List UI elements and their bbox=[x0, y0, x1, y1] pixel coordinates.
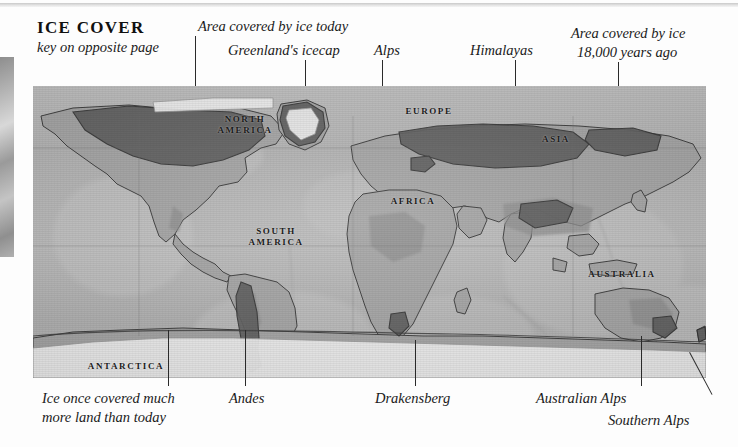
leader-line-andes bbox=[245, 330, 246, 386]
map-label-north-america: NORTH AMERICA bbox=[205, 114, 285, 136]
callout-andes: Andes bbox=[229, 390, 264, 407]
leader-line-area-today bbox=[195, 36, 196, 88]
figure-title-block: ICE COVER key on opposite page bbox=[37, 18, 159, 56]
map-label-south-america: SOUTH AMERICA bbox=[236, 226, 316, 248]
callout-greenlands-icecap: Greenland's icecap bbox=[228, 42, 340, 59]
page-subtitle: key on opposite page bbox=[37, 39, 159, 56]
map-label-africa: AFRICA bbox=[381, 196, 445, 207]
world-ice-cover-map: NORTH AMERICA SOUTH AMERICA EUROPE ASIA … bbox=[33, 86, 706, 378]
callout-ice-once-line2: more land than today bbox=[42, 409, 166, 426]
map-canvas bbox=[33, 86, 706, 378]
map-label-australia: AUSTRALIA bbox=[583, 269, 661, 280]
page-title: ICE COVER bbox=[37, 18, 159, 38]
callout-drakensberg: Drakensberg bbox=[375, 390, 450, 407]
callout-area-covered-today: Area covered by ice today bbox=[198, 18, 348, 35]
map-label-antarctica: ANTARCTICA bbox=[78, 361, 174, 372]
leader-line-ice-once bbox=[168, 330, 169, 386]
leader-line-greenland bbox=[305, 60, 306, 88]
callout-area-18000-line1: Area covered by ice bbox=[571, 25, 685, 42]
callout-ice-once-line1: Ice once covered much bbox=[42, 390, 175, 407]
figure-page: ICE COVER key on opposite page Area cove… bbox=[0, 0, 738, 447]
callout-area-18000-line2: 18,000 years ago bbox=[577, 44, 677, 61]
leader-line-australian-alps bbox=[641, 336, 642, 386]
page-edge-rule bbox=[0, 3, 738, 7]
map-label-europe: EUROPE bbox=[395, 106, 463, 117]
map-label-asia: ASIA bbox=[533, 134, 579, 145]
leader-line-drakensberg bbox=[415, 340, 416, 386]
callout-southern-alps: Southern Alps bbox=[608, 412, 690, 429]
adjacent-page-sliver bbox=[0, 57, 14, 257]
callout-alps: Alps bbox=[374, 42, 400, 59]
callout-australian-alps: Australian Alps bbox=[536, 390, 626, 407]
callout-himalayas: Himalayas bbox=[470, 42, 533, 59]
